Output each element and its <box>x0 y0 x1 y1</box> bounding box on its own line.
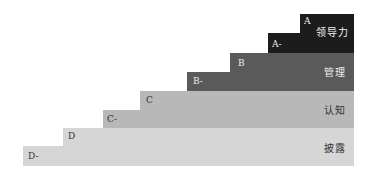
tier-a-lower-label: A- <box>272 40 282 49</box>
tier-a-upper-label: A <box>304 17 311 26</box>
tier-b-name: 管理 <box>324 68 346 78</box>
tier-c-lower-step <box>103 110 354 128</box>
tier-d-upper-step <box>63 128 354 147</box>
tier-b-lower-label: B- <box>193 77 203 86</box>
tier-b-upper-label: B <box>238 59 245 68</box>
tier-c-name: 认知 <box>324 106 346 116</box>
tier-c-upper-label: C <box>146 96 153 105</box>
tier-d-lower-step <box>23 146 354 166</box>
tier-c-upper-step <box>140 91 354 111</box>
tier-d-lower-label: D- <box>28 152 38 161</box>
tier-d-name: 披露 <box>324 144 346 154</box>
tier-a-name: 领导力 <box>316 28 349 38</box>
tier-c-lower-label: C- <box>107 115 117 124</box>
tier-d-upper-label: D <box>68 132 75 141</box>
